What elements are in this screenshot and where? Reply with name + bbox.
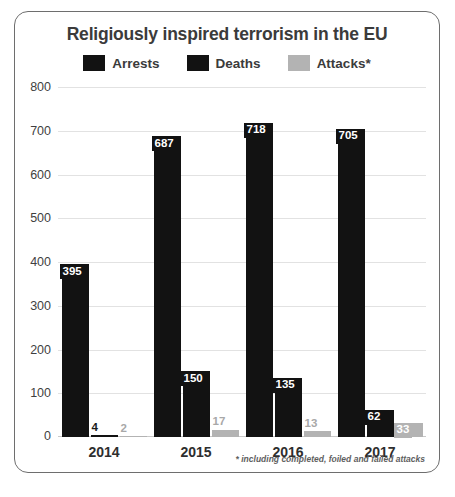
bar-2017-arrests[interactable]: 705 [338,129,365,437]
bar-group-2016: 718 135 13 [242,87,334,437]
chart-legend: Arrests Deaths Attacks* [15,55,439,71]
bar-value-2016-deaths: 135 [273,378,298,393]
bar-2014-arrests[interactable]: 395 [62,264,89,437]
bar-2014-deaths[interactable]: 4 [91,435,118,437]
bar-group-2014: 395 4 2 [58,87,150,437]
bar-2017-deaths[interactable]: 62 [367,410,394,437]
legend-swatch-deaths [187,55,209,71]
legend-swatch-arrests [83,55,105,71]
legend-label-arrests: Arrests [112,56,159,71]
x-label-2014: 2014 [58,444,150,460]
legend-item-attacks[interactable]: Attacks* [288,55,371,71]
chart-card: Religiously inspired terrorism in the EU… [14,11,440,473]
y-tick-300: 300 [30,299,51,313]
bar-value-2014-deaths: 4 [89,420,101,435]
legend-swatch-attacks [288,55,310,71]
y-tick-400: 400 [30,255,51,269]
bar-groups: 395 4 2 687 150 17 [58,87,426,437]
bar-value-2017-deaths: 62 [365,410,384,425]
y-tick-700: 700 [30,124,51,138]
y-tick-800: 800 [30,80,51,94]
y-tick-500: 500 [30,211,51,225]
legend-label-attacks: Attacks* [317,56,371,71]
legend-item-deaths[interactable]: Deaths [187,55,261,71]
x-label-2015: 2015 [150,444,242,460]
y-tick-600: 600 [30,168,51,182]
bar-value-2017-arrests: 705 [336,129,361,144]
bar-value-2014-attacks: 2 [118,421,130,436]
y-tick-0: 0 [44,429,51,443]
bar-2016-arrests[interactable]: 718 [246,123,273,437]
bar-2015-deaths[interactable]: 150 [183,371,210,437]
legend-label-deaths: Deaths [216,56,261,71]
bar-value-2016-arrests: 718 [244,123,269,138]
bar-value-2017-attacks: 33 [394,423,413,438]
bar-value-2015-attacks: 17 [210,415,229,430]
cutoff-caption [100,485,440,496]
bar-group-2015: 687 150 17 [150,87,242,437]
y-tick-200: 200 [30,343,51,357]
bar-value-2014-arrests: 395 [60,264,85,279]
page-title: Religiously inspired terrorism in the EU [15,24,439,45]
y-tick-100: 100 [30,386,51,400]
chart-footnote: * including completed, foiled and failed… [236,454,425,464]
bar-value-2015-deaths: 150 [181,371,206,386]
bar-2015-attacks[interactable]: 17 [212,430,239,437]
legend-item-arrests[interactable]: Arrests [83,55,159,71]
bar-group-2017: 705 62 33 [334,87,426,437]
bar-2016-deaths[interactable]: 135 [275,378,302,437]
bar-2017-attacks[interactable]: 33 [396,423,423,437]
plot-area: 800 700 600 500 400 300 200 100 0 [58,87,426,437]
bar-value-2016-attacks: 13 [302,416,321,431]
bar-2015-arrests[interactable]: 687 [154,136,181,437]
bar-2014-attacks[interactable]: 2 [120,436,147,437]
bar-value-2015-arrests: 687 [152,136,177,151]
bar-2016-attacks[interactable]: 13 [304,431,331,437]
